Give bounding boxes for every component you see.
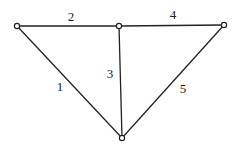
edge-4 (119, 25, 224, 26)
node-top-middle (116, 23, 121, 28)
graph-diagram: 1 2 3 4 5 (0, 0, 240, 155)
node-left (14, 23, 19, 28)
edge-label-5: 5 (180, 81, 187, 96)
node-bottom (119, 135, 124, 140)
edge-5 (122, 25, 224, 138)
edge-label-4: 4 (170, 7, 177, 22)
edge-label-3: 3 (107, 66, 114, 81)
node-right (221, 22, 226, 27)
edge-1 (17, 26, 122, 138)
edge-label-1: 1 (57, 79, 64, 94)
edge-label-2: 2 (68, 9, 75, 24)
edge-3 (119, 26, 122, 138)
